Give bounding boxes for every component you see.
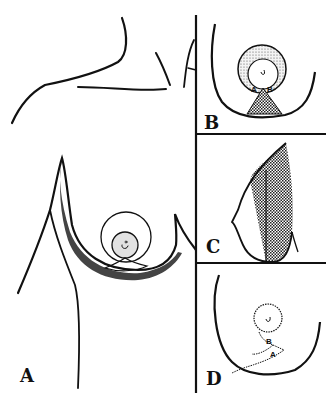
panel-label-c: C (206, 236, 220, 257)
panel-label-a: A (19, 365, 35, 386)
point-a-label-d: A (270, 350, 276, 359)
panel-d: B A D (206, 275, 320, 389)
panel-a: A (12, 18, 196, 388)
figure-canvas: A A B B C B A D (0, 0, 328, 393)
panel-c: C (206, 143, 298, 262)
panel-label-d: D (206, 368, 222, 389)
panel-label-b: B (204, 112, 219, 133)
point-b-label: B (267, 85, 273, 94)
point-b-label-d: B (266, 337, 272, 346)
point-a-label: A (251, 85, 257, 94)
panel-b: A B B (204, 24, 315, 133)
